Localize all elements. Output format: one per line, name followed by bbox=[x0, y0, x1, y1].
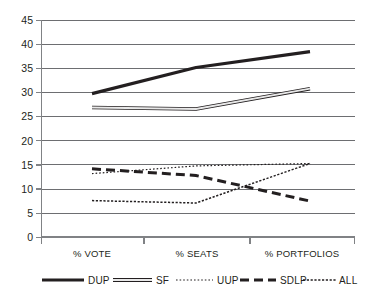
x-tick-label: % SEATS bbox=[176, 248, 219, 259]
y-tick-label: 0 bbox=[27, 231, 33, 243]
legend-label: SF bbox=[156, 275, 169, 286]
line-chart: 45 40 35 30 25 20 15 10 5 0 % VOTE % SEA… bbox=[0, 0, 374, 299]
y-tick-label: 15 bbox=[21, 159, 33, 171]
legend-label: UUP bbox=[217, 275, 239, 286]
y-tick-label: 25 bbox=[21, 110, 33, 122]
y-tick-label: 30 bbox=[21, 86, 33, 98]
legend-label: SDLP bbox=[280, 275, 307, 286]
x-tick-label: % VOTE bbox=[73, 248, 111, 259]
legend-label: DUP bbox=[88, 275, 110, 286]
y-tick-label: 35 bbox=[21, 62, 33, 74]
y-tick-label: 40 bbox=[21, 38, 33, 50]
y-tick-label: 45 bbox=[21, 14, 33, 26]
chart-container: 45 40 35 30 25 20 15 10 5 0 % VOTE % SEA… bbox=[0, 0, 374, 299]
legend-label: ALL bbox=[339, 275, 358, 286]
y-tick-label: 5 bbox=[27, 207, 33, 219]
x-tick-label: % PORTFOLIOS bbox=[265, 248, 340, 259]
y-tick-label: 20 bbox=[21, 135, 33, 147]
y-tick-label: 10 bbox=[21, 183, 33, 195]
